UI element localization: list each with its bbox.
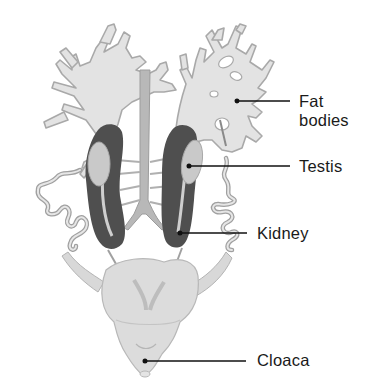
label-testis: Testis: [299, 157, 342, 176]
label-cloaca-text: Cloaca: [257, 351, 310, 370]
label-cloaca: Cloaca: [257, 351, 310, 370]
label-kidney-text: Kidney: [257, 224, 309, 243]
cloaca: [102, 259, 199, 377]
frog-urogenital-diagram: [0, 0, 377, 387]
label-testis-text: Testis: [299, 157, 342, 176]
label-fat-bodies-line-1: Fat: [299, 92, 349, 111]
testis-left: [88, 142, 110, 186]
label-fat-bodies: Fat bodies: [299, 92, 349, 130]
kidney-left: [86, 124, 125, 249]
label-kidney: Kidney: [257, 224, 309, 243]
coiled-duct-left: [38, 170, 87, 250]
label-fat-bodies-line-2: bodies: [299, 111, 349, 130]
